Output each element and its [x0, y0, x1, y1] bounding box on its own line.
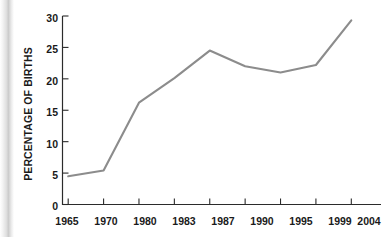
x-tick-marks — [68, 199, 351, 205]
chart-plot-area — [0, 0, 391, 237]
chart-figure: PERCENTAGE OF BIRTHS 30 25 20 15 10 5 0 … — [0, 0, 391, 237]
data-series-line — [68, 20, 351, 176]
